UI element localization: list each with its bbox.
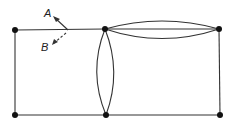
arrow-label-a: A [44,8,51,19]
edge-n2-n5-arc-right [105,29,114,115]
node-n5 [103,112,109,118]
edge-n2-n5-arc-left [97,29,106,115]
edge-n1-n2 [15,29,105,30]
edge-n3-n6 [219,29,220,115]
node-n6 [217,112,223,118]
graph-diagram: A B [0,0,232,125]
edge-n2-n3-arc-down [105,29,219,39]
edge-n2-n3-arc-up [105,21,219,29]
graph-canvas [0,0,232,125]
node-n3 [216,26,222,32]
arrow-label-b: B [41,42,48,53]
node-n4 [12,112,18,118]
node-n2 [102,26,108,32]
node-n1 [12,27,18,33]
